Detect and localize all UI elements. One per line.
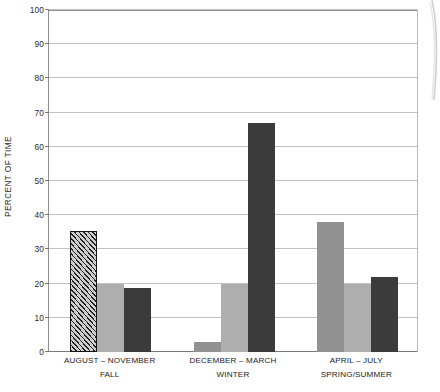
x-axis-group-label: DECEMBER – MARCHWINTER bbox=[171, 354, 294, 381]
group-label-range: AUGUST – NOVEMBER bbox=[64, 356, 155, 365]
plot-area bbox=[48, 10, 418, 352]
y-tick-label: 30 bbox=[16, 244, 44, 254]
y-tick-label: 10 bbox=[16, 313, 44, 323]
y-axis-title-text: PERCENT OF TIME bbox=[5, 135, 14, 216]
y-tick-label: 100 bbox=[16, 5, 44, 15]
gridline bbox=[49, 9, 417, 10]
x-axis-group-label: APRIL – JULYSPRING/SUMMER bbox=[295, 354, 418, 381]
bar bbox=[248, 123, 275, 352]
y-tick-label: 50 bbox=[16, 176, 44, 186]
y-axis-tick-labels: 0102030405060708090100 bbox=[16, 0, 44, 392]
y-tick-label: 80 bbox=[16, 73, 44, 83]
bar bbox=[221, 284, 248, 352]
group-label-season: FALL bbox=[48, 368, 171, 382]
y-tickmark bbox=[45, 9, 49, 10]
scan-page-curl-artifact bbox=[418, 0, 440, 105]
bar bbox=[194, 342, 221, 352]
y-tick-label: 40 bbox=[16, 210, 44, 220]
bar bbox=[70, 231, 97, 352]
group-label-season: WINTER bbox=[171, 368, 294, 382]
y-tick-label: 90 bbox=[16, 39, 44, 49]
y-tick-label: 60 bbox=[16, 142, 44, 152]
bar bbox=[97, 284, 124, 352]
y-tick-label: 0 bbox=[16, 347, 44, 357]
y-tick-label: 70 bbox=[16, 108, 44, 118]
x-axis-group-labels: AUGUST – NOVEMBERFALLDECEMBER – MARCHWIN… bbox=[48, 354, 418, 392]
group-label-range: DECEMBER – MARCH bbox=[190, 356, 277, 365]
bar-chart: PERCENT OF TIME 0102030405060708090100 A… bbox=[0, 0, 440, 392]
bar bbox=[124, 288, 151, 352]
bars-layer bbox=[49, 11, 417, 352]
x-axis-group-label: AUGUST – NOVEMBERFALL bbox=[48, 354, 171, 381]
bar bbox=[317, 222, 344, 352]
group-label-range: APRIL – JULY bbox=[330, 356, 383, 365]
bar bbox=[344, 284, 371, 352]
group-label-season: SPRING/SUMMER bbox=[295, 368, 418, 382]
bar bbox=[371, 277, 398, 352]
y-tick-label: 20 bbox=[16, 279, 44, 289]
